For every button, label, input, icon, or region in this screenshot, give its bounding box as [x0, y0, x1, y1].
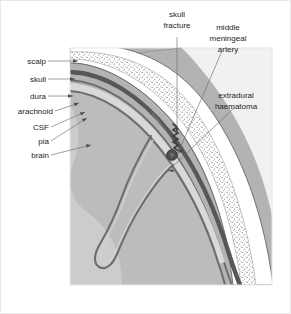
label-skull-fracture-line1: skull — [169, 10, 185, 19]
label-mma-line3: artery — [218, 45, 238, 54]
label-skull-fracture-line2: fracture — [163, 21, 191, 30]
label-skull: skull — [30, 75, 46, 84]
label-csf: CSF — [33, 123, 49, 132]
anatomy-diagram: scalp skull dura arachnoid CSF pia brain… — [1, 1, 290, 313]
label-brain: brain — [31, 151, 49, 160]
label-arachnoid: arachnoid — [18, 107, 53, 116]
label-mma-line1: middle — [216, 23, 240, 32]
label-pia: pia — [38, 137, 49, 146]
artery-lumen — [170, 153, 174, 157]
figure-container: scalp skull dura arachnoid CSF pia brain… — [0, 0, 291, 314]
label-haematoma-line2: haematoma — [215, 102, 258, 111]
label-scalp: scalp — [27, 57, 46, 66]
label-mma-line2: meningeal — [210, 34, 247, 43]
label-dura: dura — [30, 92, 47, 101]
label-haematoma-line1: extradural — [218, 91, 254, 100]
